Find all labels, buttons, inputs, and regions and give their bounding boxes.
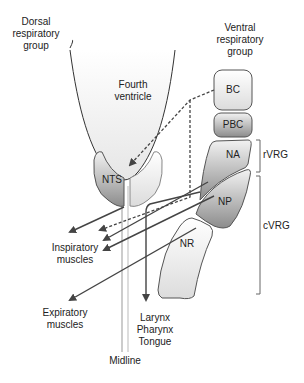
midline-label: Midline [105, 355, 145, 367]
larynx-pharynx-tongue-label: Larynx Pharynx Tongue [130, 312, 180, 348]
dorsal-pointer-line [70, 40, 73, 48]
nr-nucleus [158, 218, 213, 299]
na-label: NA [218, 149, 248, 160]
ventral-group-label: Ventral respiratory group [205, 22, 275, 58]
np-label: NP [210, 196, 240, 207]
dorsal-group-label: Dorsal respiratory group [6, 16, 66, 52]
inspiratory-muscles-label: Inspiratory muscles [40, 242, 110, 266]
nts-label: NTS [100, 174, 124, 185]
expiratory-muscles-label: Expiratory muscles [30, 307, 100, 331]
rvrg-label: rVRG [263, 149, 288, 160]
nts-to-inspiratory-arrow [70, 207, 124, 232]
nr-label: NR [172, 238, 202, 249]
fourth-ventricle-label: Fourth ventricle [108, 79, 158, 103]
cvrg-bracket [256, 176, 260, 294]
bc-label: BC [214, 84, 252, 95]
cvrg-label: cVRG [263, 220, 290, 231]
pbc-label: PBC [214, 119, 252, 130]
rvrg-bracket [256, 140, 260, 172]
